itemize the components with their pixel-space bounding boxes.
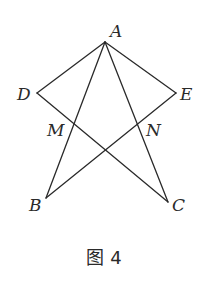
label-E: E — [179, 84, 193, 104]
segment-DC — [37, 93, 168, 202]
figure-caption: 图 4 — [86, 247, 121, 268]
point-labels: A D E M N B C — [16, 21, 193, 215]
label-C: C — [172, 195, 185, 215]
label-M: M — [46, 120, 65, 140]
label-D: D — [16, 84, 31, 104]
geometry-figure: A D E M N B C 图 4 — [0, 0, 208, 282]
label-N: N — [145, 120, 162, 140]
label-B: B — [28, 195, 42, 215]
label-A: A — [108, 21, 122, 41]
